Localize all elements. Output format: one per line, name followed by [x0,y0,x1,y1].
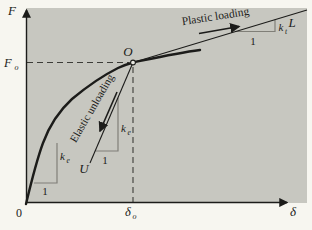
force-deflection-diagram: F δ 0 F o δ o O U L k e 1 k e 1 k t 1 Pl… [0,0,312,230]
delta-o-label: δ [125,205,131,219]
y-axis-label: F [7,3,17,18]
point-o-marker [131,60,136,65]
fo-label-subscript: o [15,63,19,72]
delta-o-label-subscript: o [133,212,137,221]
fo-label: F [3,56,12,70]
plot-area [26,8,307,203]
point-u-label: U [79,161,90,176]
x-axis-label: δ [290,204,297,219]
point-l-label: L [287,15,295,30]
origin-label: 0 [16,206,22,220]
run-label-plastic: 1 [250,35,256,47]
point-o-label: O [123,44,133,59]
figure-canvas: F δ 0 F o δ o O U L k e 1 k e 1 k t 1 Pl… [0,0,312,230]
run-label-curve: 1 [42,185,48,197]
run-label-unloading: 1 [102,154,108,166]
